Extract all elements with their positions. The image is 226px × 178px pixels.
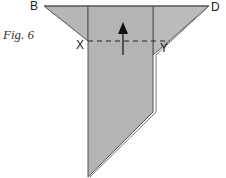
point-label-x: X <box>76 39 84 51</box>
point-label-b: B <box>30 0 38 12</box>
point-label-y: Y <box>160 42 168 54</box>
left-flap <box>44 6 88 41</box>
figure-caption: Fig. 6 <box>3 27 34 43</box>
point-label-d: D <box>211 1 220 13</box>
